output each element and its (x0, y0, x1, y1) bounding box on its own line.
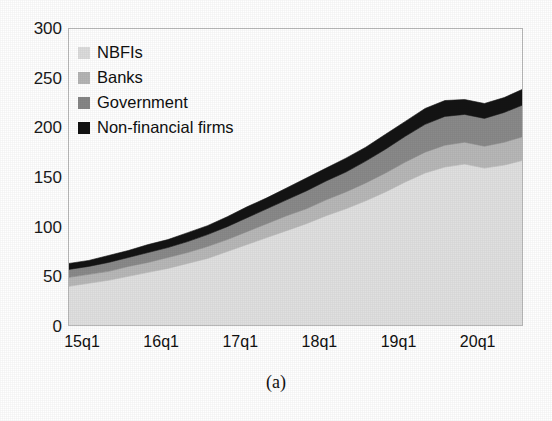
legend-item-label: NBFIs (97, 44, 143, 61)
legend-item: Government (78, 90, 318, 115)
y-axis-tick-label: 250 (18, 69, 62, 86)
legend-item: Banks (78, 65, 318, 90)
legend-swatch-icon (78, 72, 90, 84)
legend-item: NBFIs (78, 40, 318, 65)
figure-caption: (a) (0, 372, 552, 393)
figure-panel-a: 050100150200250300 NBFIsBanksGovernmentN… (0, 0, 552, 421)
legend-swatch-icon (78, 47, 90, 59)
y-axis-tick-label: 50 (18, 268, 62, 285)
x-axis-tick-label: 15q1 (64, 334, 100, 350)
y-axis-tick-label: 100 (18, 218, 62, 235)
y-axis: 050100150200250300 (14, 0, 62, 421)
x-axis-tick-label: 16q1 (143, 334, 179, 350)
legend-item-label: Non-financial firms (97, 119, 234, 136)
legend-swatch-icon (78, 122, 90, 134)
chart-legend: NBFIsBanksGovernmentNon-financial firms (78, 40, 318, 140)
y-axis-tick-label: 150 (18, 169, 62, 186)
x-axis-tick-label: 19q1 (381, 334, 417, 350)
y-axis-tick-label: 300 (18, 20, 62, 37)
x-axis: 15q116q117q118q119q120q1 (0, 330, 552, 356)
legend-item: Non-financial firms (78, 115, 318, 140)
legend-item-label: Government (97, 94, 188, 111)
x-axis-tick-label: 17q1 (222, 334, 258, 350)
y-axis-tick-label: 200 (18, 119, 62, 136)
x-axis-tick-label: 18q1 (302, 334, 338, 350)
x-axis-tick-label: 20q1 (460, 334, 496, 350)
legend-item-label: Banks (97, 69, 143, 86)
legend-swatch-icon (78, 97, 90, 109)
